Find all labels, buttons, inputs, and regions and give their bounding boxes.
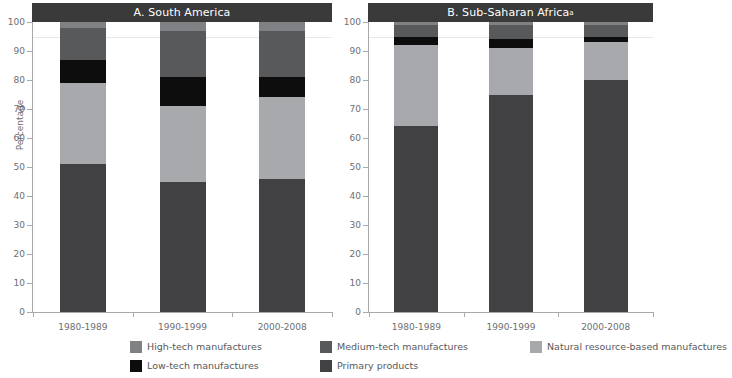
bar-segment (259, 179, 305, 312)
y-axis-tick (363, 167, 368, 168)
y-axis-tick (363, 109, 368, 110)
x-axis-tick (133, 312, 134, 317)
bar-segment (489, 25, 533, 40)
y-axis-tick (27, 283, 32, 284)
bar-segment (584, 80, 628, 312)
y-axis-tick-label: 50 (333, 162, 361, 172)
legend-item[interactable]: High-tech manufactures (130, 341, 276, 353)
y-axis-tick (363, 283, 368, 284)
y-axis-tick-label: 10 (333, 278, 361, 288)
bar-2000-2008[interactable] (584, 22, 628, 312)
plot-area-a: 01020304050607080901001980-19891990-1999… (32, 22, 332, 313)
bar-segment (259, 31, 305, 77)
bar-segment (60, 83, 106, 164)
x-axis-tick-label: 2000-2008 (258, 322, 307, 332)
legend: High-tech manufacturesMedium-tech manufa… (130, 338, 650, 376)
bar-segment (584, 42, 628, 80)
legend-label: High-tech manufactures (147, 341, 262, 352)
y-axis-tick (27, 51, 32, 52)
x-axis-tick (653, 312, 654, 317)
y-axis-tick-label: 80 (333, 75, 361, 85)
bar-segment (60, 164, 106, 312)
y-axis-tick (363, 312, 368, 313)
y-axis-tick-label: 40 (333, 191, 361, 201)
y-axis-tick-label: 0 (333, 307, 361, 317)
y-axis-title: Percentage (15, 75, 25, 175)
bar-1990-1999[interactable] (489, 22, 533, 312)
y-axis-tick (363, 138, 368, 139)
x-axis-tick-label: 1980-1989 (58, 322, 107, 332)
bar-segment (584, 37, 628, 43)
bar-segment (259, 22, 305, 31)
bar-segment (584, 25, 628, 37)
y-axis-tick-label: 60 (0, 133, 25, 143)
y-axis-tick (363, 225, 368, 226)
bar-segment (160, 31, 206, 77)
y-axis-tick (27, 196, 32, 197)
x-axis-tick (464, 312, 465, 317)
bar-segment (60, 28, 106, 60)
bar-segment (489, 95, 533, 313)
bar-1990-1999[interactable] (160, 22, 206, 312)
y-axis-tick-label: 60 (333, 133, 361, 143)
legend-swatch (320, 341, 332, 353)
y-axis-tick-label: 100 (0, 17, 25, 27)
x-axis-tick (369, 312, 370, 317)
y-axis-tick (27, 254, 32, 255)
bar-1980-1989[interactable] (394, 22, 438, 312)
y-axis-tick (363, 196, 368, 197)
bar-segment (160, 77, 206, 106)
y-axis-tick-label: 10 (0, 278, 25, 288)
y-axis-tick (27, 22, 32, 23)
y-axis-tick-label: 70 (0, 104, 25, 114)
y-axis-tick-label: 90 (333, 46, 361, 56)
bar-segment (394, 22, 438, 25)
y-axis-tick-label: 20 (333, 249, 361, 259)
bar-segment (259, 97, 305, 178)
legend-item[interactable]: Natural resource-based manufactures (530, 341, 732, 353)
x-axis-tick (232, 312, 233, 317)
bar-segment (394, 126, 438, 312)
x-axis-tick-label: 2000-2008 (581, 322, 630, 332)
legend-swatch (130, 360, 142, 372)
legend-item[interactable]: Low-tech manufactures (130, 360, 273, 372)
x-axis-tick-label: 1990-1999 (486, 322, 535, 332)
bar-segment (489, 39, 533, 48)
legend-swatch (320, 360, 332, 372)
panel-title-b-text: B. Sub-Saharan Africa (447, 6, 569, 19)
y-axis-tick-label: 90 (0, 46, 25, 56)
x-axis-tick-label: 1990-1999 (158, 322, 207, 332)
bar-segment (160, 106, 206, 181)
bar-segment (60, 22, 106, 28)
bar-segment (259, 77, 305, 97)
panel-title-b: B. Sub-Saharan Africaa (368, 3, 653, 22)
y-axis-tick (363, 51, 368, 52)
legend-swatch (530, 341, 542, 353)
bar-segment (394, 37, 438, 46)
bar-segment (160, 182, 206, 313)
x-axis-tick-label: 1980-1989 (392, 322, 441, 332)
legend-item[interactable]: Primary products (320, 360, 432, 372)
panel-sub-saharan-africa: B. Sub-Saharan Africaa 01020304050607080… (368, 3, 653, 313)
y-axis-tick-label: 40 (0, 191, 25, 201)
legend-item[interactable]: Medium-tech manufactures (320, 341, 482, 353)
y-axis-tick (27, 225, 32, 226)
y-axis-tick-label: 70 (333, 104, 361, 114)
y-axis-tick (363, 80, 368, 81)
y-axis-tick (27, 109, 32, 110)
panel-title-a-text: A. South America (134, 6, 231, 19)
y-axis-tick (363, 22, 368, 23)
legend-label: Natural resource-based manufactures (547, 341, 727, 352)
bar-1980-1989[interactable] (60, 22, 106, 312)
legend-label: Primary products (337, 360, 418, 371)
y-axis-tick (27, 312, 32, 313)
y-axis-tick-label: 80 (0, 75, 25, 85)
panel-south-america: A. South America 01020304050607080901001… (32, 3, 332, 313)
panel-title-a: A. South America (32, 3, 332, 22)
y-axis-tick-label: 20 (0, 249, 25, 259)
legend-swatch (130, 341, 142, 353)
panel-title-b-superscript: a (569, 9, 573, 17)
legend-label: Low-tech manufactures (147, 360, 259, 371)
bar-2000-2008[interactable] (259, 22, 305, 312)
